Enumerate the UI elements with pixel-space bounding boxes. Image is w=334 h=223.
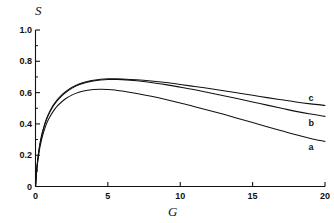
curve-a	[36, 89, 326, 186]
y-tick-label: 0	[27, 182, 32, 191]
x-axis-title: G	[168, 205, 177, 218]
y-tick-label: 0.8	[19, 57, 32, 66]
y-tick-label: 0.4	[19, 119, 32, 128]
data-curves	[36, 79, 326, 187]
y-tick-label: 0.2	[19, 151, 32, 160]
x-tick-label: 20	[320, 192, 330, 201]
x-tick-label: 10	[175, 192, 185, 201]
y-axis-title: S	[35, 4, 42, 17]
y-tick-label: 1.0	[19, 26, 32, 35]
y-tick-label: 0.6	[19, 88, 32, 97]
curve-label-a: a	[309, 143, 314, 152]
x-tick-label: 15	[248, 192, 258, 201]
curve-b	[36, 79, 326, 186]
curve-label-b: b	[309, 119, 315, 128]
curve-label-c: c	[309, 94, 314, 103]
chart-figure: S G 00.20.40.60.81.0 05101520 abc	[0, 0, 334, 223]
plot-canvas	[0, 0, 334, 223]
x-axis-ticks	[36, 182, 326, 187]
x-tick-label: 5	[105, 192, 110, 201]
x-tick-label: 0	[33, 192, 38, 201]
curve-c	[36, 79, 326, 187]
